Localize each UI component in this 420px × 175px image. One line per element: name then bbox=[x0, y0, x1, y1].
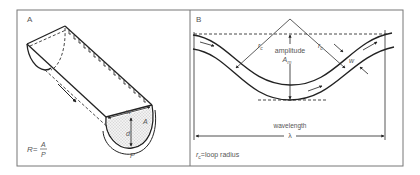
radius-label-right: rc bbox=[318, 42, 323, 51]
hidden-edges bbox=[30, 28, 112, 131]
amplitude-label: amplitude bbox=[275, 47, 305, 55]
wavelength-label: wavelength bbox=[273, 122, 307, 130]
flow-arrow bbox=[200, 42, 214, 46]
panel-a-label: A bbox=[27, 15, 33, 24]
radius-label-left: rc bbox=[258, 42, 263, 51]
hydraulic-radius-formula: R= A P bbox=[27, 141, 47, 158]
wavelength-symbol: λ bbox=[288, 132, 292, 139]
panel-b-label: B bbox=[196, 15, 201, 24]
loop-radius-legend: rc=loop radius bbox=[196, 151, 240, 160]
svg-text:R=: R= bbox=[27, 145, 38, 154]
svg-text:A: A bbox=[40, 141, 46, 148]
width-arrow-in bbox=[334, 44, 343, 52]
area-label: A bbox=[142, 118, 148, 125]
panel-a: A bbox=[27, 15, 156, 159]
svg-text:P: P bbox=[41, 151, 46, 158]
width-arrow-out bbox=[360, 67, 368, 74]
panel-b: B rc rc amplitude Am w wavelength λ bbox=[193, 15, 394, 160]
perimeter-label: P bbox=[130, 152, 135, 159]
flow-arrow bbox=[308, 86, 322, 91]
meander-width-label: w bbox=[349, 57, 355, 64]
figure: A bbox=[0, 0, 420, 175]
